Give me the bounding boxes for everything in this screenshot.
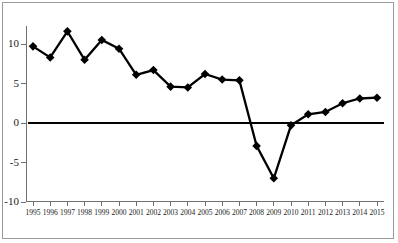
data-point-marker <box>356 94 365 103</box>
data-point-marker <box>218 75 227 84</box>
x-tick-label: 2005 <box>198 208 213 217</box>
data-point-marker <box>252 142 261 151</box>
y-tick-label-group: 1050-5-10 <box>4 37 19 207</box>
x-tick-label: 2008 <box>249 208 264 217</box>
series-marker-group <box>29 27 382 183</box>
y-tick-label: 5 <box>14 77 20 89</box>
y-tick-label: -10 <box>4 195 19 207</box>
y-axis-group <box>21 26 26 202</box>
y-tick-label: 10 <box>8 37 20 49</box>
x-tick-label: 2003 <box>163 208 178 217</box>
x-tick-label: 2012 <box>318 208 333 217</box>
x-tick-label: 2000 <box>112 208 127 217</box>
data-point-marker <box>373 93 382 102</box>
y-tick-label: -5 <box>10 156 20 168</box>
x-tick-label: 1998 <box>77 208 92 217</box>
x-tick-label: 2013 <box>335 208 350 217</box>
line-chart-plot: 1050-5-10 199519961997199819992000200120… <box>0 0 398 243</box>
series-line-path <box>33 31 377 178</box>
x-tick-label: 2010 <box>284 208 299 217</box>
x-tick-label: 2002 <box>146 208 161 217</box>
x-tick-label: 1999 <box>94 208 109 217</box>
x-tick-label: 2011 <box>301 208 316 217</box>
x-tick-label: 1997 <box>60 208 75 217</box>
x-tick-group <box>33 201 377 206</box>
x-tick-label: 2004 <box>180 208 195 217</box>
x-tick-label-group: 1995199619971998199920002001200220032004… <box>26 208 385 217</box>
x-tick-label: 2015 <box>370 208 385 217</box>
x-tick-label: 2007 <box>232 208 247 217</box>
data-point-marker <box>321 108 330 117</box>
x-tick-label: 2009 <box>266 208 281 217</box>
y-tick-label: 0 <box>14 116 20 128</box>
x-tick-label: 2001 <box>129 208 144 217</box>
x-tick-label: 1995 <box>26 208 41 217</box>
data-point-marker <box>270 174 279 183</box>
x-axis-group <box>26 201 384 206</box>
data-point-marker <box>235 76 244 85</box>
x-tick-label: 1996 <box>43 208 58 217</box>
y-tick-group <box>21 44 26 202</box>
x-tick-label: 2014 <box>352 208 367 217</box>
data-point-marker <box>338 99 347 108</box>
x-tick-label: 2006 <box>215 208 230 217</box>
chart-figure: 1050-5-10 199519961997199819992000200120… <box>0 0 398 243</box>
